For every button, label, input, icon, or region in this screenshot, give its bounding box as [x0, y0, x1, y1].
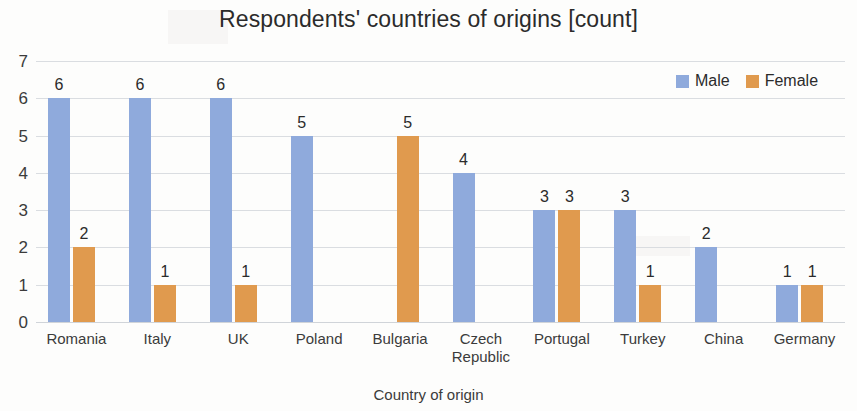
bar-male [614, 210, 636, 322]
x-axis-tick-label: Czech Republic [441, 330, 522, 366]
bar-male [291, 136, 313, 322]
bar-group: 62 [36, 61, 117, 322]
bar-female [558, 210, 580, 322]
legend-swatch-icon [746, 75, 759, 88]
bar-value-label: 1 [231, 264, 261, 280]
x-axis-tick-label: Poland [279, 330, 360, 348]
bar-female [73, 247, 95, 322]
bar-value-label: 1 [635, 264, 665, 280]
bar-group: 61 [198, 61, 279, 322]
bar-value-label: 5 [287, 115, 317, 131]
bar-female [235, 285, 257, 322]
x-axis-tick-label: Portugal [521, 330, 602, 348]
bar-group: 33 [521, 61, 602, 322]
y-axis: 01234567 [0, 61, 30, 322]
y-axis-tick-label: 6 [19, 90, 28, 107]
bar-female [154, 285, 176, 322]
x-axis-tick-label: UK [198, 330, 279, 348]
bar-male [129, 98, 151, 322]
x-axis-tick-label: Germany [764, 330, 845, 348]
bar-value-label: 5 [393, 115, 423, 131]
x-axis-title: Country of origin [0, 386, 857, 403]
y-axis-tick-label: 3 [19, 202, 28, 219]
x-axis-category-labels: RomaniaItalyUKPolandBulgariaCzech Republ… [36, 330, 845, 376]
bars-layer: 6261615543331211 [36, 61, 845, 322]
bar-value-label: 2 [691, 226, 721, 242]
legend-label: Female [765, 73, 818, 89]
bar-value-label: 2 [69, 226, 99, 242]
bar-male [48, 98, 70, 322]
bar-male [695, 247, 717, 322]
bar-value-label: 6 [125, 77, 155, 93]
bar-value-label: 3 [554, 189, 584, 205]
legend-swatch-icon [676, 75, 689, 88]
y-axis-tick-label: 7 [19, 53, 28, 70]
legend-label: Male [695, 73, 730, 89]
legend-entry: Male [676, 73, 730, 89]
bar-group: 5 [360, 61, 441, 322]
x-axis-tick-label: Romania [36, 330, 117, 348]
x-axis-tick-label: China [683, 330, 764, 348]
bar-chart: Respondents' countries of origins [count… [0, 0, 857, 411]
chart-title: Respondents' countries of origins [count… [0, 6, 857, 33]
bar-group: 4 [441, 61, 522, 322]
y-axis-tick-label: 1 [19, 276, 28, 293]
bar-value-label: 4 [449, 152, 479, 168]
bar-group: 5 [279, 61, 360, 322]
bar-value-label: 3 [610, 189, 640, 205]
bar-female [639, 285, 661, 322]
bar-female [397, 136, 419, 322]
bar-male [210, 98, 232, 322]
x-axis-tick-label: Italy [117, 330, 198, 348]
legend-entry: Female [746, 73, 818, 89]
bar-value-label: 6 [44, 77, 74, 93]
bar-value-label: 1 [797, 264, 827, 280]
y-axis-tick-label: 0 [19, 314, 28, 331]
bar-group: 61 [117, 61, 198, 322]
bar-male [776, 285, 798, 322]
bar-group: 2 [683, 61, 764, 322]
y-axis-tick-label: 2 [19, 239, 28, 256]
bar-male [453, 173, 475, 322]
bar-male [533, 210, 555, 322]
chart-legend: MaleFemale [676, 70, 818, 92]
x-axis-tick-label: Bulgaria [360, 330, 441, 348]
y-axis-tick-label: 5 [19, 127, 28, 144]
gridline [36, 322, 845, 323]
x-axis-tick-label: Turkey [602, 330, 683, 348]
bar-female [801, 285, 823, 322]
bar-group: 11 [764, 61, 845, 322]
bar-value-label: 1 [150, 264, 180, 280]
y-axis-tick-label: 4 [19, 164, 28, 181]
bar-value-label: 6 [206, 77, 236, 93]
bar-group: 31 [602, 61, 683, 322]
